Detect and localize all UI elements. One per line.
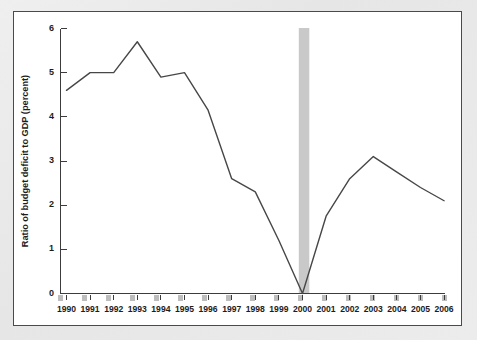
ytick-label-3: 3 — [49, 155, 54, 165]
xtick-label-2005: 2005 — [411, 304, 430, 314]
ytick-label-0: 0 — [49, 288, 54, 298]
figure-root: 6 5 4 3 2 1 0 Ratio of budget deficit to… — [0, 0, 477, 340]
xtick-label-1992: 1992 — [104, 304, 123, 314]
x-axis-tick-marks — [67, 295, 445, 300]
data-series-line — [67, 42, 445, 294]
xtick-label-1999: 1999 — [269, 304, 288, 314]
xtick-label-2001: 2001 — [317, 304, 336, 314]
xtick-label-2003: 2003 — [364, 304, 383, 314]
ytick-label-5: 5 — [49, 67, 54, 77]
ytick-label-1: 1 — [49, 243, 54, 253]
year-2000-highlight-band — [299, 28, 310, 294]
xtick-label-1996: 1996 — [199, 304, 218, 314]
xtick-label-2006: 2006 — [435, 304, 454, 314]
xtick-label-2004: 2004 — [387, 304, 406, 314]
xtick-label-2002: 2002 — [340, 304, 359, 314]
ytick-label-4: 4 — [49, 111, 54, 121]
xtick-label-1997: 1997 — [222, 304, 241, 314]
y-axis-ticks — [61, 29, 67, 294]
xtick-label-1994: 1994 — [151, 304, 170, 314]
y-axis-title: Ratio of budget deficit to GDP (percent) — [20, 75, 30, 247]
xtick-label-1995: 1995 — [175, 304, 194, 314]
xtick-label-1993: 1993 — [128, 304, 147, 314]
xtick-label-1991: 1991 — [81, 304, 100, 314]
chart-panel: 6 5 4 3 2 1 0 Ratio of budget deficit to… — [13, 11, 462, 326]
xtick-label-2000: 2000 — [293, 304, 312, 314]
line-chart-plot: 6 5 4 3 2 1 0 Ratio of budget deficit to… — [14, 12, 461, 325]
ytick-label-2: 2 — [49, 199, 54, 209]
ytick-label-6: 6 — [49, 23, 54, 33]
x-axis-tick-blocks — [58, 295, 447, 301]
xtick-label-1998: 1998 — [246, 304, 265, 314]
y-axis-tick-labels: 6 5 4 3 2 1 0 — [49, 23, 54, 298]
x-axis-tick-labels: 1990 1991 1992 1993 1994 1995 1996 1997 … — [57, 304, 454, 314]
xtick-label-1990: 1990 — [57, 304, 76, 314]
